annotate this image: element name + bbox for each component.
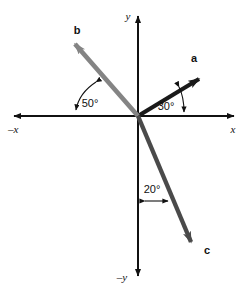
axis-group (14, 16, 234, 276)
angle-50-label: 50° (82, 97, 99, 109)
vector-c-shaft (138, 116, 191, 242)
angle-20-group: 20° (144, 183, 168, 201)
angle-20-label: 20° (144, 183, 161, 195)
angle-30-label: 30° (158, 100, 175, 112)
vector-b-label: b (74, 24, 81, 36)
angle-50-group: 50° (76, 82, 98, 110)
y-axis-positive-label: y (125, 10, 131, 22)
vector-c-label: c (204, 244, 210, 256)
vector-a-label: a (191, 52, 198, 64)
x-axis-positive-label: x (230, 123, 236, 135)
x-axis-negative-label: –x (7, 123, 19, 135)
vector-diagram-figure: –x x y –y a b c 30° 50° (0, 0, 250, 294)
angle-30-group: 30° (158, 87, 184, 112)
vector-diagram-canvas: –x x y –y a b c 30° 50° (0, 0, 250, 294)
y-axis-negative-label: –y (116, 271, 128, 283)
